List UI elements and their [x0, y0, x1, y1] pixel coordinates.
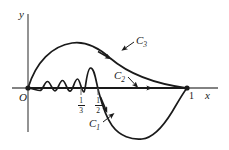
- curve-c3-path: [28, 43, 187, 88]
- one-half-numerator: 1: [92, 97, 104, 105]
- y-axis-label: y: [19, 9, 24, 20]
- curve-label-c2: C2: [114, 70, 125, 84]
- one-third-denominator: 3: [75, 107, 87, 115]
- origin-dot: [25, 85, 30, 90]
- one-third-numerator: 1: [75, 97, 87, 105]
- curve-label-c1: C1: [89, 118, 100, 132]
- tick-label-one-third: 1 3: [75, 97, 87, 115]
- x-axis-label: x: [205, 90, 210, 101]
- origin-label: O: [19, 92, 27, 103]
- c2-leader-arrow: [128, 77, 136, 86]
- tick-label-one-half: 1 2: [92, 97, 104, 115]
- curve-c1-path: [28, 68, 187, 139]
- c3-subscript: 3: [143, 40, 147, 49]
- endpoint-label-one: 1: [189, 91, 194, 101]
- curve-label-c3: C3: [136, 35, 147, 49]
- c1-subscript: 1: [96, 123, 100, 132]
- c2-subscript: 2: [121, 75, 125, 84]
- math-figure: y x O 1 1 3 1 2 C1 C2 C3: [0, 0, 229, 150]
- c3-leader-arrow: [124, 42, 134, 49]
- one-half-denominator: 2: [92, 107, 104, 115]
